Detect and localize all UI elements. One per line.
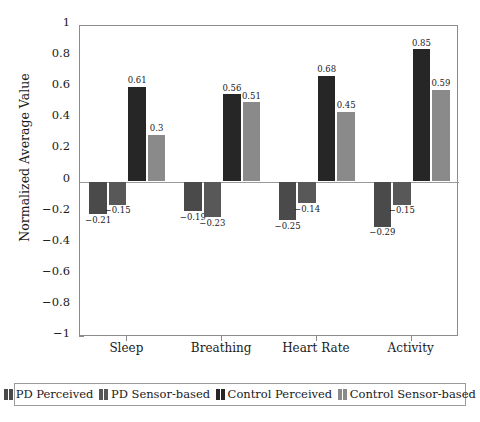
bar-value-label: −0.15 xyxy=(389,206,415,215)
bar xyxy=(109,182,127,205)
legend-item-label: PD Perceived xyxy=(16,389,94,401)
bar xyxy=(204,182,222,218)
plot-area: −0.21−0.150.610.3−0.19−0.230.560.51−0.25… xyxy=(79,25,458,336)
x-tick-label: Breathing xyxy=(191,341,252,355)
y-axis-label: Normalized Average Value xyxy=(17,48,32,268)
y-tick-label: 0.2 xyxy=(52,141,70,153)
bar-chart: Normalized Average Value 10.80.60.40.20−… xyxy=(0,0,480,422)
legend-swatch-icon xyxy=(99,389,108,400)
y-tick-label: 0.6 xyxy=(52,79,70,91)
legend-item-label: Control Perceived xyxy=(228,389,333,401)
y-tick-label: −0.8 xyxy=(42,297,70,309)
bar-value-label: 0.51 xyxy=(242,92,261,101)
legend-item[interactable]: Control Sensor-based xyxy=(335,389,479,401)
bar xyxy=(184,182,202,212)
y-tick-label: −0.6 xyxy=(42,266,70,278)
legend-swatch-icon xyxy=(216,389,225,400)
bar xyxy=(279,182,297,221)
bar xyxy=(128,87,146,182)
bar-value-label: 0.68 xyxy=(317,65,336,74)
bar-value-label: 0.59 xyxy=(431,79,450,88)
legend-swatch-icon xyxy=(338,389,347,400)
bar xyxy=(413,49,431,181)
y-tick-label: 0.8 xyxy=(52,48,70,60)
legend-item[interactable]: Control Perceived xyxy=(213,389,335,401)
bar xyxy=(223,94,241,181)
bar-value-label: −0.14 xyxy=(294,205,320,214)
legend-item-label: Control Sensor-based xyxy=(350,389,476,401)
legend-item-label: PD Sensor-based xyxy=(111,389,210,401)
legend-item[interactable]: PD Sensor-based xyxy=(96,389,213,401)
legend-item[interactable]: PD Perceived xyxy=(1,389,96,401)
bar xyxy=(148,135,166,182)
bar-value-label: 0.3 xyxy=(150,124,164,133)
y-tick-label: 0 xyxy=(63,173,70,185)
x-tick-label: Heart Rate xyxy=(282,341,349,355)
bar-value-label: −0.15 xyxy=(105,206,131,215)
bar-value-label: −0.21 xyxy=(85,216,111,225)
y-tick-label: 1 xyxy=(63,17,70,29)
y-tick-label: −1 xyxy=(53,328,70,340)
bar xyxy=(298,182,316,204)
y-tick-label: 0.4 xyxy=(52,110,70,122)
bar-value-label: 0.85 xyxy=(412,39,431,48)
x-tick-label: Activity xyxy=(387,341,433,355)
bar-value-label: −0.23 xyxy=(199,219,225,228)
x-tick-label: Sleep xyxy=(109,341,143,355)
bar-value-label: −0.25 xyxy=(275,222,301,231)
y-tick-label: −0.4 xyxy=(42,235,70,247)
y-tick-label: −0.2 xyxy=(42,204,70,216)
y-tick-mark xyxy=(79,336,84,337)
bar xyxy=(374,182,392,227)
bar xyxy=(393,182,411,205)
bar-value-label: 0.56 xyxy=(222,84,241,93)
bar-value-label: −0.29 xyxy=(369,228,395,237)
legend-swatch-icon xyxy=(4,389,13,400)
bar xyxy=(432,90,450,182)
bar-value-label: 0.61 xyxy=(128,76,147,85)
bar-value-label: 0.45 xyxy=(337,101,356,110)
bar xyxy=(318,76,336,182)
chart-legend: PD PerceivedPD Sensor-basedControl Perce… xyxy=(14,383,466,406)
bar xyxy=(243,102,261,181)
bar xyxy=(337,112,355,182)
